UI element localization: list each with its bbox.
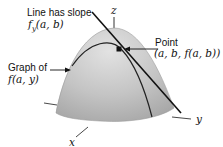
graph-expression: f(a, y) bbox=[8, 73, 39, 85]
slope-label: Line has slope bbox=[27, 7, 92, 18]
y-axis-label: y bbox=[196, 113, 202, 125]
y-axis-back bbox=[44, 103, 57, 105]
z-axis-label: z bbox=[111, 4, 117, 16]
point-marker bbox=[117, 47, 122, 52]
point-expression: (a, b, f(a, b)) bbox=[154, 47, 220, 59]
x-axis-label: x bbox=[69, 136, 75, 147]
slope-expression: fy(a, b) bbox=[28, 18, 64, 35]
graph-label: Graph of bbox=[8, 62, 47, 73]
y-axis bbox=[172, 117, 191, 119]
partial-derivative-diagram: z x y Line has slope fy(a, b) Graph of f… bbox=[0, 0, 223, 147]
x-axis bbox=[76, 127, 88, 137]
